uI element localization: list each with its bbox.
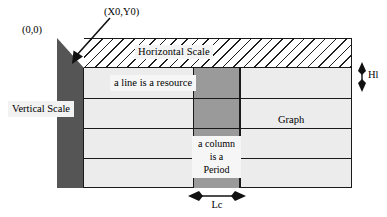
- vertical-scale-label: Vertical Scale: [8, 101, 74, 117]
- width-measure-label: Lc: [193, 198, 241, 211]
- period-note-line-1: a column: [192, 137, 241, 150]
- graph-label: Graph: [275, 113, 307, 127]
- vertical-scale-corner-notch: [57, 38, 84, 68]
- grid-row-line: [84, 128, 352, 129]
- period-note-line-3: Period: [192, 163, 241, 176]
- column-is-period-label: a column is a Period: [192, 136, 241, 178]
- height-measure-label: Hl: [368, 68, 379, 81]
- grid-row-line: [84, 98, 352, 99]
- origin-label: (0,0): [22, 23, 42, 36]
- start-point-label: (X0,Y0): [104, 5, 139, 18]
- period-note-line-2: is a: [192, 150, 241, 163]
- height-measure-arrow-icon: [356, 62, 368, 92]
- line-is-resource-label: a line is a resource: [110, 75, 196, 91]
- diagram-canvas: Horizontal Scale Vertical Scale a line i…: [0, 0, 387, 217]
- horizontal-scale-label: Horizontal Scale: [135, 45, 213, 59]
